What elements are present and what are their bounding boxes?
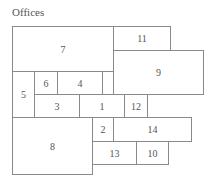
office-6: 6 (34, 71, 58, 95)
office-13: 13 (92, 141, 137, 165)
office-8: 8 (12, 117, 93, 175)
office-2: 2 (92, 117, 114, 142)
office-1: 1 (79, 94, 125, 118)
office-3: 3 (34, 94, 80, 118)
office-7: 7 (12, 26, 114, 72)
office-12: 12 (124, 94, 148, 118)
office-9: 9 (113, 50, 204, 95)
office-4: 4 (57, 71, 103, 95)
diagram-title: Offices (12, 6, 44, 18)
office-5: 5 (12, 71, 35, 118)
office-10: 10 (136, 141, 169, 165)
office-11: 11 (113, 26, 171, 51)
office-14: 14 (113, 117, 192, 142)
office-unlabeled (102, 71, 114, 95)
